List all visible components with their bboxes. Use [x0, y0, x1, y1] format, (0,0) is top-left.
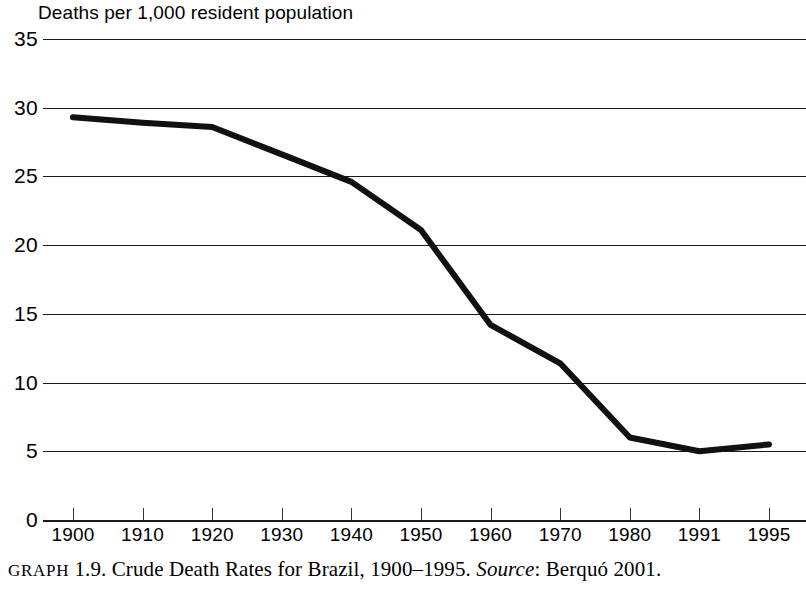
- caption-text: Crude Death Rates for Brazil, 1900–1995.: [112, 557, 471, 581]
- figure-graph-1-9: Deaths per 1,000 resident population 051…: [0, 0, 806, 590]
- series-crude-death-rate: [73, 117, 769, 451]
- caption-label: GRAPH: [8, 561, 69, 580]
- data-line-svg: [0, 0, 806, 535]
- caption-source-value: : Berquó 2001.: [534, 557, 661, 581]
- chart-plot-area: Deaths per 1,000 resident population 051…: [0, 0, 806, 535]
- caption-number: 1.9.: [74, 557, 106, 581]
- caption-source-label: Source: [476, 557, 534, 581]
- figure-caption: GRAPH 1.9. Crude Death Rates for Brazil,…: [8, 556, 804, 584]
